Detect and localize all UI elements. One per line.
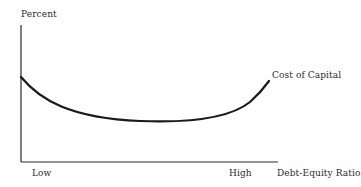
- x-axis-label: Debt-Equity Ratio: [277, 168, 361, 178]
- cost-of-capital-chart: Percent Cost of Capital Low High Debt-Eq…: [0, 0, 361, 187]
- chart-canvas: [0, 0, 361, 187]
- x-tick-high: High: [229, 168, 252, 178]
- y-axis-label: Percent: [21, 9, 57, 19]
- x-tick-low: Low: [32, 168, 51, 178]
- cost-of-capital-curve: [21, 77, 269, 121]
- series-label: Cost of Capital: [272, 70, 341, 80]
